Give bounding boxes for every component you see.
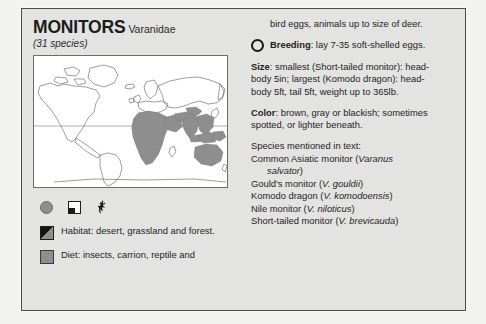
title-family-name: Varanidae <box>128 23 175 35</box>
diet-value: : insects, carrion, reptile and <box>78 249 195 260</box>
size-value: : smallest (Short-tailed monitor): head-… <box>251 61 429 96</box>
species-mentioned-block: Species mentioned in text: Common Asiati… <box>251 140 455 228</box>
habitat-text: Habitat: desert, grassland and forest. <box>61 225 215 237</box>
species-latin-name: Varanus <box>358 153 393 164</box>
species-latin-name: V. niloticus <box>307 203 352 214</box>
species-common-name: Gould's monitor ( <box>251 178 322 189</box>
species-item: Komodo dragon (V. komodoensis) <box>251 190 455 203</box>
species-paren: ) <box>360 178 363 189</box>
habitat-value: : desert, grassland and forest. <box>91 225 215 236</box>
species-paren: ) <box>395 215 398 226</box>
species-common-name: Common Asiatic monitor ( <box>251 153 358 164</box>
species-latin-name-2: salvator <box>267 165 300 176</box>
species-heading: Species mentioned in text: <box>251 140 455 153</box>
species-common-name: Nile monitor ( <box>251 203 307 214</box>
species-common-name: Komodo dragon ( <box>251 190 323 201</box>
species-latin-name: V. komodoensis <box>323 190 389 201</box>
color-label: Color <box>251 107 275 118</box>
monitor-lizard-silhouette-icon <box>96 200 108 215</box>
breeding-value: : lay 7-35 soft-shelled eggs. <box>311 39 426 50</box>
breeding-ring-icon <box>251 39 264 52</box>
species-item: Common Asiatic monitor (Varanus <box>251 153 455 166</box>
size-paragraph: Size: smallest (Short-tailed monitor): h… <box>251 61 443 98</box>
diet-swatch-icon <box>40 250 54 264</box>
species-paren: ) <box>300 165 303 176</box>
diet-label: Diet <box>61 249 78 260</box>
symbol-legend-row <box>33 200 239 216</box>
world-distribution-map <box>33 55 228 188</box>
species-common-name: Short-tailed monitor ( <box>251 215 339 226</box>
species-item-continued: salvator) <box>251 165 455 178</box>
species-item: Gould's monitor (V. gouldii) <box>251 178 455 191</box>
title-species-count: (31 species) <box>33 38 239 49</box>
page-title: MONITORSVaranidae <box>33 18 239 37</box>
species-info-panel: MONITORSVaranidae (31 species) <box>21 8 466 311</box>
size-label: Size <box>251 61 270 72</box>
breeding-label: Breeding <box>270 39 311 50</box>
left-column: MONITORSVaranidae (31 species) <box>33 18 239 302</box>
habitat-swatch-icon <box>40 226 54 240</box>
diet-text: Diet: insects, carrion, reptile and <box>61 249 195 261</box>
species-latin-name: V. gouldii <box>322 178 360 189</box>
habitat-key-row: Habitat: desert, grassland and forest. <box>33 225 239 240</box>
diet-key-row: Diet: insects, carrion, reptile and <box>33 249 239 264</box>
title-common-name: MONITORS <box>33 17 125 37</box>
diet-continuation-text: bird eggs, animals up to size of deer. <box>251 18 455 30</box>
species-latin-name: V. brevicauda <box>339 215 396 226</box>
habitat-symbol-icon <box>68 201 81 214</box>
species-item: Short-tailed monitor (V. brevicauda) <box>251 215 455 228</box>
species-paren: ) <box>389 190 392 201</box>
habitat-label: Habitat <box>61 225 91 236</box>
color-value: : brown, gray or blackish; sometimes spo… <box>251 107 428 130</box>
species-paren: ) <box>351 203 354 214</box>
breeding-text: Breeding: lay 7-35 soft-shelled eggs. <box>270 39 425 51</box>
species-item: Nile monitor (V. niloticus) <box>251 203 455 216</box>
right-column: bird eggs, animals up to size of deer. B… <box>239 18 455 302</box>
scan-background: MONITORSVaranidae (31 species) <box>0 0 486 324</box>
breeding-row: Breeding: lay 7-35 soft-shelled eggs. <box>251 39 455 52</box>
breeding-symbol-icon <box>40 201 53 214</box>
color-paragraph: Color: brown, gray or blackish; sometime… <box>251 107 443 131</box>
